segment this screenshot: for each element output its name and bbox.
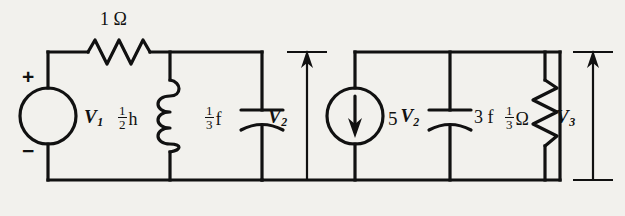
inductor-fraction-numerator: 1 xyxy=(118,104,127,117)
capacitor-left-fraction-denominator: 3 xyxy=(205,117,214,131)
source-polarity-minus-text: − xyxy=(22,139,34,162)
voltage-marker-v2-label: V2 xyxy=(268,107,287,128)
resistor-shunt-fraction: 1 3 xyxy=(505,104,514,132)
source-v1-label-sub: 1 xyxy=(97,115,104,129)
resistor-1-ohm-label-text: 1 Ω xyxy=(100,9,127,29)
resistor-one-third-ohm-label: 1 3 Ω xyxy=(505,105,529,133)
source-v1-label: V1 xyxy=(84,107,103,128)
voltage-marker-v3-label: V3 xyxy=(556,107,575,128)
voltage-marker-v3-label-text: V xyxy=(556,106,569,127)
inductor-fraction-denominator: 2 xyxy=(118,117,127,131)
source-polarity-plus-text: + xyxy=(22,65,34,88)
voltage-marker-v2-label-sub: 2 xyxy=(281,115,288,129)
voltage-marker-v2-label-text: V xyxy=(268,106,281,127)
capacitor-left-fraction-numerator: 1 xyxy=(205,104,214,117)
voltage-source-v1 xyxy=(20,88,76,144)
resistor-one-third-ohm xyxy=(533,80,557,146)
source-v1-label-text: V xyxy=(84,106,97,127)
resistor-1-ohm xyxy=(88,40,150,64)
voltage-marker-v3-label-sub: 3 xyxy=(569,115,576,129)
capacitor-one-third-farad-label: 1 3 f xyxy=(205,105,222,133)
source-polarity-minus: − xyxy=(22,140,34,161)
inductor-fraction: 1 2 xyxy=(118,104,127,132)
resistor-1-ohm-label: 1 Ω xyxy=(100,10,127,28)
capacitor-3-farad-label-text: 3 f xyxy=(474,107,494,127)
current-source-variable-sub: 2 xyxy=(413,115,419,129)
capacitor-3-farad-label: 3 f xyxy=(474,108,494,126)
resistor-shunt-unit: Ω xyxy=(514,109,529,129)
capacitor-left-fraction: 1 3 xyxy=(205,104,214,132)
inductor-unit: h xyxy=(127,109,138,129)
source-polarity-plus: + xyxy=(22,66,34,87)
current-source-coefficient: 5 xyxy=(388,108,401,129)
capacitor-left-unit: f xyxy=(214,109,222,129)
inductor-half-henry-label: 1 2 h xyxy=(118,105,138,133)
circuit-diagram: 1 Ω + − V1 1 2 h 1 3 f V2 5V2 3 f xyxy=(0,0,625,216)
current-source-5v2-label: 5V2 xyxy=(388,106,419,128)
resistor-shunt-fraction-numerator: 1 xyxy=(505,104,514,117)
resistor-shunt-fraction-denominator: 3 xyxy=(505,117,514,131)
current-source-variable: V xyxy=(401,105,414,126)
inductor-half-henry xyxy=(158,80,179,152)
